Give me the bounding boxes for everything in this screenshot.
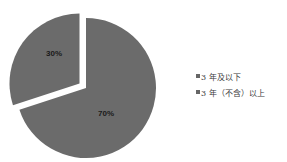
- legend-swatch-icon: [196, 74, 200, 78]
- chart-legend: 3 年及以下 3 年（不含）以上: [196, 70, 265, 102]
- legend-label: 3 年及以下: [201, 71, 241, 82]
- legend-item-over-3-years: 3 年（不含）以上: [196, 86, 265, 98]
- legend-swatch-icon: [196, 90, 200, 94]
- legend-label: 3 年（不含）以上: [201, 87, 265, 98]
- slice-label-30: 30%: [46, 49, 62, 58]
- pie-slice-30: [10, 14, 80, 106]
- slice-label-70: 70%: [98, 109, 114, 118]
- legend-item-3-years-or-less: 3 年及以下: [196, 70, 265, 82]
